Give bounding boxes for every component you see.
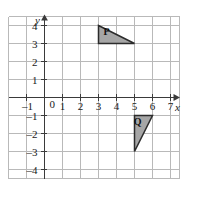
x-axis-tick-label: 0	[50, 98, 56, 110]
y-axis-tick-label: –4	[26, 164, 39, 176]
x-axis-tick-label: 5	[132, 100, 138, 112]
x-axis-tick-label: 1	[60, 100, 66, 112]
shape-label-q: Q	[134, 116, 142, 127]
x-axis-tick-label: 6	[150, 100, 156, 112]
y-axis-tick-label: –1	[26, 110, 38, 122]
y-axis-tick-label: –2	[26, 128, 38, 140]
coordinate-grid-svg: –101234567 4321–1–2–3–4 PQ xy	[0, 0, 200, 199]
x-axis-tick-label: 7	[168, 100, 174, 112]
coordinate-plane-figure: –101234567 4321–1–2–3–4 PQ xy	[0, 0, 200, 199]
x-axis-tick-label: 2	[78, 100, 84, 112]
shape-label-p: P	[104, 26, 110, 37]
y-axis-name: y	[34, 14, 40, 26]
y-axis-tick-label: 3	[32, 38, 38, 50]
y-axis-tick-label: 1	[32, 74, 38, 86]
y-axis-tick-label: –3	[26, 146, 39, 158]
x-axis-tick-label: 4	[114, 100, 120, 112]
x-axis-name: x	[174, 101, 180, 113]
y-axis-tick-label: 2	[32, 56, 38, 68]
x-axis-tick-label: 3	[96, 100, 102, 112]
